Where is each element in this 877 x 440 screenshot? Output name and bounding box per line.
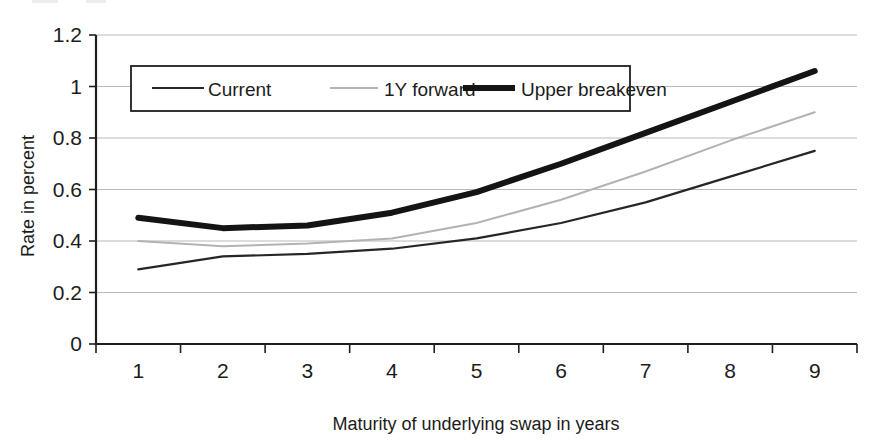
y-tick-label: 0.2 <box>53 281 82 304</box>
y-tick-label: 0.8 <box>53 126 82 149</box>
x-axis-tick-marks <box>96 344 857 353</box>
legend-label-upper-breakeven: Upper breakeven <box>521 79 667 100</box>
chart-figure: 00.20.40.60.811.2 123456789 Maturity of … <box>0 0 877 440</box>
legend-label-1y-forward: 1Y forward <box>384 79 476 100</box>
x-tick-label: 7 <box>640 359 652 382</box>
line-chart: 00.20.40.60.811.2 123456789 Maturity of … <box>0 0 877 440</box>
y-tick-label: 1 <box>70 75 82 98</box>
y-tick-label: 0.6 <box>53 178 82 201</box>
y-tick-label: 1.2 <box>53 23 82 46</box>
x-tick-label: 8 <box>724 359 736 382</box>
y-tick-label: 0.4 <box>53 229 83 252</box>
x-tick-label: 6 <box>555 359 567 382</box>
x-axis-tick-labels: 123456789 <box>132 359 820 382</box>
y-axis-tick-labels: 00.20.40.60.811.2 <box>53 23 83 355</box>
legend-items: Current1Y forwardUpper breakeven <box>152 79 667 100</box>
y-axis-title: Rate in percent <box>18 135 38 257</box>
scan-artifact <box>32 0 106 3</box>
x-tick-label: 5 <box>471 359 483 382</box>
y-tick-label: 0 <box>70 332 82 355</box>
legend: Current1Y forwardUpper breakeven <box>131 66 667 111</box>
x-tick-label: 3 <box>302 359 314 382</box>
series-line-current <box>138 151 814 269</box>
x-tick-label: 2 <box>217 359 229 382</box>
x-tick-label: 9 <box>809 359 821 382</box>
legend-label-current: Current <box>208 79 272 100</box>
x-axis-title: Maturity of underlying swap in years <box>332 414 619 434</box>
x-tick-label: 1 <box>132 359 144 382</box>
x-tick-label: 4 <box>386 359 398 382</box>
